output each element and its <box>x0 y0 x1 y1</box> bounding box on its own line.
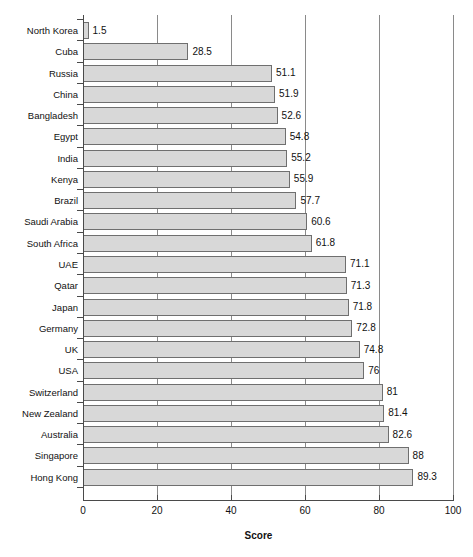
bar-row: 76 <box>83 362 473 379</box>
x-axis-title: Score <box>0 530 473 541</box>
category-label-south-africa: South Africa <box>0 238 78 249</box>
x-tick-label-100: 100 <box>445 505 462 517</box>
bar-row: 51.1 <box>83 65 473 82</box>
category-label-japan: Japan <box>0 302 78 313</box>
bar-value-label: 1.5 <box>93 26 107 36</box>
bar-row: 88 <box>83 447 473 464</box>
bar-row: 55.9 <box>83 171 473 188</box>
bar-row: 51.9 <box>83 86 473 103</box>
bar[interactable] <box>83 447 409 464</box>
bar-value-label: 89.3 <box>417 472 436 482</box>
bar-value-label: 76 <box>368 366 379 376</box>
bar-chart: North KoreaCubaRussiaChinaBangladeshEgyp… <box>0 0 473 557</box>
bar-value-label: 74.8 <box>364 345 383 355</box>
bar-value-label: 52.6 <box>282 111 301 121</box>
category-label-china: China <box>0 89 78 100</box>
bar[interactable] <box>83 107 278 124</box>
bar-row: 54.8 <box>83 128 473 145</box>
y-tick <box>77 381 83 382</box>
bar[interactable] <box>83 150 287 167</box>
bar[interactable] <box>83 128 286 145</box>
y-tick <box>77 274 83 275</box>
bar-value-label: 60.6 <box>311 217 330 227</box>
y-tick <box>77 317 83 318</box>
y-tick <box>77 147 83 148</box>
bar[interactable] <box>83 235 312 252</box>
bar[interactable] <box>83 405 384 422</box>
bar[interactable] <box>83 426 389 443</box>
bar[interactable] <box>83 320 352 337</box>
bar-row: 1.5 <box>83 22 473 39</box>
x-tick-0 <box>83 495 84 501</box>
bar[interactable] <box>83 362 364 379</box>
x-tick-40 <box>231 495 232 501</box>
bar-row: 81.4 <box>83 405 473 422</box>
y-axis-line <box>83 15 84 501</box>
category-label-kenya: Kenya <box>0 174 78 185</box>
bar[interactable] <box>83 192 296 209</box>
bar-row: 89.3 <box>83 469 473 486</box>
category-label-egypt: Egypt <box>0 131 78 142</box>
bar-value-label: 51.1 <box>276 68 295 78</box>
x-tick-80 <box>379 495 380 501</box>
bar-value-label: 71.8 <box>353 302 372 312</box>
category-label-bangladesh: Bangladesh <box>0 110 78 121</box>
bar[interactable] <box>83 65 272 82</box>
y-tick <box>77 168 83 169</box>
bar-value-label: 28.5 <box>192 47 211 57</box>
y-tick <box>77 232 83 233</box>
y-tick <box>77 62 83 63</box>
bar-value-label: 88 <box>413 451 424 461</box>
bar[interactable] <box>83 384 383 401</box>
y-tick <box>77 210 83 211</box>
x-axis-title-label: Score <box>245 530 273 541</box>
bar-row: 71.8 <box>83 299 473 316</box>
category-label-singapore: Singapore <box>0 450 78 461</box>
y-tick <box>77 104 83 105</box>
bar-row: 72.8 <box>83 320 473 337</box>
bar-row: 74.8 <box>83 341 473 358</box>
category-label-russia: Russia <box>0 68 78 79</box>
category-label-uk: UK <box>0 344 78 355</box>
category-label-switzerland: Switzerland <box>0 387 78 398</box>
bars-container: 1.528.551.151.952.654.855.255.957.760.66… <box>83 15 473 500</box>
y-tick <box>77 40 83 41</box>
y-tick <box>77 189 83 190</box>
bar-row: 81 <box>83 384 473 401</box>
category-label-saudi-arabia: Saudi Arabia <box>0 216 78 227</box>
bar-value-label: 81.4 <box>388 408 407 418</box>
bar[interactable] <box>83 341 360 358</box>
category-label-usa: USA <box>0 365 78 376</box>
bar-value-label: 57.7 <box>300 196 319 206</box>
bar[interactable] <box>83 469 413 486</box>
category-label-australia: Australia <box>0 429 78 440</box>
y-tick <box>77 402 83 403</box>
x-tick-20 <box>157 495 158 501</box>
x-tick-label-20: 20 <box>151 505 162 517</box>
bar[interactable] <box>83 299 349 316</box>
bar-row: 61.8 <box>83 235 473 252</box>
bar-row: 82.6 <box>83 426 473 443</box>
category-axis-labels: North KoreaCubaRussiaChinaBangladeshEgyp… <box>0 15 78 500</box>
bar-value-label: 71.3 <box>351 281 370 291</box>
bar-value-label: 72.8 <box>356 323 375 333</box>
category-label-hong-kong: Hong Kong <box>0 472 78 483</box>
bar[interactable] <box>83 213 307 230</box>
bar[interactable] <box>83 277 347 294</box>
y-tick <box>77 466 83 467</box>
x-tick-label-0: 0 <box>80 505 86 517</box>
category-label-brazil: Brazil <box>0 195 78 206</box>
y-tick <box>77 253 83 254</box>
bar[interactable] <box>83 86 275 103</box>
category-label-new-zealand: New Zealand <box>0 408 78 419</box>
y-tick <box>77 296 83 297</box>
bar-value-label: 54.8 <box>290 132 309 142</box>
bar-value-label: 55.9 <box>294 174 313 184</box>
bar[interactable] <box>83 171 290 188</box>
y-tick <box>77 444 83 445</box>
category-label-india: India <box>0 153 78 164</box>
bar[interactable] <box>83 256 346 273</box>
y-tick <box>77 338 83 339</box>
bar-row: 71.3 <box>83 277 473 294</box>
bar[interactable] <box>83 43 188 60</box>
